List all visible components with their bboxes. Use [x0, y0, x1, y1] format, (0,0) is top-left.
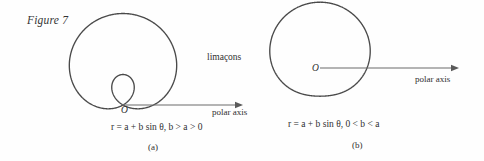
- equation-a: r = a + b sin θ, b > a > 0: [111, 123, 202, 133]
- origin-label-a: O: [121, 106, 128, 116]
- panel-label-a: (a): [148, 143, 158, 152]
- limacon-dimpled-curve: [270, 2, 370, 96]
- figure-caption: Figure 7: [27, 15, 68, 27]
- origin-label-b: O: [312, 64, 319, 74]
- polar-axis-arrowhead-b: [451, 65, 459, 72]
- limacon-figure-svg: [0, 0, 484, 161]
- equation-b: r = a + b sin θ, 0 < b < a: [288, 120, 379, 130]
- limacon-loop-curve: [69, 14, 176, 109]
- panel-label-b: (b): [352, 141, 363, 150]
- limacons-family-label: limaçons: [207, 53, 241, 63]
- polar-axis-label-a: polar axis: [212, 108, 247, 117]
- polar-axis-label-b: polar axis: [415, 75, 450, 84]
- figure-root: Figure 7 limaçons O polar axis r = a + b…: [0, 0, 484, 161]
